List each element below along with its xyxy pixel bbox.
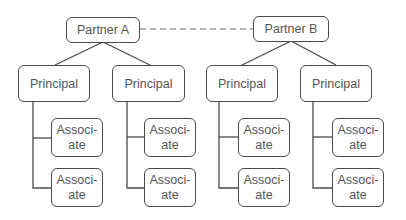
associate-label-line2: ate <box>68 138 85 153</box>
principal-label: Principal <box>30 76 78 92</box>
associate-label-line1: Associ- <box>150 123 191 138</box>
associate-label-line2: ate <box>161 138 178 153</box>
associate-label-line2: ate <box>349 188 366 203</box>
principal-node-1: Principal <box>18 65 90 102</box>
connector-principal-1-associates <box>33 102 51 188</box>
associate-node: Associ- ate <box>144 118 196 157</box>
associate-label-line1: Associ- <box>57 123 98 138</box>
principal-label: Principal <box>125 76 173 92</box>
associate-label-line1: Associ- <box>338 173 379 188</box>
associate-node: Associ- ate <box>332 168 384 207</box>
associate-node: Associ- ate <box>238 168 290 207</box>
partner-a-label: Partner A <box>77 22 129 38</box>
connector-partner-a-principal-1 <box>55 42 103 65</box>
connector-principal-4-associates <box>313 102 332 188</box>
associate-label-line2: ate <box>161 188 178 203</box>
associate-label-line2: ate <box>255 188 272 203</box>
principal-label: Principal <box>218 76 266 92</box>
connector-principal-2-associates <box>127 102 144 188</box>
associate-node: Associ- ate <box>51 118 103 157</box>
principal-label: Principal <box>312 76 360 92</box>
associate-label-line1: Associ- <box>57 173 98 188</box>
associate-label-line1: Associ- <box>150 173 191 188</box>
connector-principal-3-associates <box>219 102 238 188</box>
principal-node-3: Principal <box>206 65 278 102</box>
associate-label-line2: ate <box>255 138 272 153</box>
associate-label-line1: Associ- <box>338 123 379 138</box>
partner-b-node: Partner B <box>253 16 329 42</box>
partner-b-label: Partner B <box>265 21 318 37</box>
connector-partner-a-principal-2 <box>103 42 150 65</box>
principal-node-2: Principal <box>112 65 185 102</box>
partner-a-node: Partner A <box>66 17 140 43</box>
associate-label-line2: ate <box>349 138 366 153</box>
associate-label-line1: Associ- <box>244 123 285 138</box>
associate-node: Associ- ate <box>144 168 196 207</box>
associate-label-line2: ate <box>68 188 85 203</box>
associate-node: Associ- ate <box>238 118 290 157</box>
associate-label-line1: Associ- <box>244 173 285 188</box>
associate-node: Associ- ate <box>51 168 103 207</box>
connector-partner-b-principal-3 <box>242 41 291 65</box>
connector-partner-b-principal-4 <box>291 41 336 65</box>
principal-node-4: Principal <box>300 65 372 102</box>
associate-node: Associ- ate <box>332 118 384 157</box>
